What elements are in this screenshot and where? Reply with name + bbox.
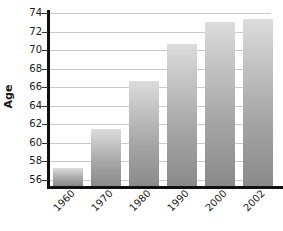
bar-chart: Age 56586062646668707274 196019701980199… [0,0,283,231]
y-axis-tick-label: 74 [18,8,42,18]
y-axis-tick-label: 60 [18,138,42,148]
y-axis-tick-label: 58 [18,156,42,166]
y-axis-tick-label: 70 [18,45,42,55]
y-axis-tick-mark [42,143,48,144]
y-axis-tick-mark [42,124,48,125]
y-axis-tick-mark [42,50,48,51]
y-axis-tick-labels: 56586062646668707274 [14,0,42,231]
y-axis-tick-label: 56 [18,175,42,185]
y-axis-tick-mark [42,106,48,107]
y-axis-tick-mark [42,69,48,70]
bar [91,129,121,186]
bar [205,22,235,186]
y-axis-tick-label: 72 [18,27,42,37]
y-axis-tick-label: 68 [18,64,42,74]
y-axis-tick-label: 64 [18,101,42,111]
y-axis-tick-mark [42,13,48,14]
bar [129,81,159,186]
y-axis-tick-mark [42,161,48,162]
y-axis-tick-label: 62 [18,119,42,129]
x-axis-tick-labels: 196019701980199020002002 [49,189,283,231]
bar [53,168,83,186]
y-axis-tick-mark [42,32,48,33]
bar [167,44,197,186]
y-axis-tick-mark [42,180,48,181]
bars-layer [49,13,277,186]
plot-area [49,13,277,186]
y-axis-tick-mark [42,87,48,88]
y-axis-tick-label: 66 [18,82,42,92]
y-axis-title: Age [2,75,15,119]
bar [243,19,273,186]
